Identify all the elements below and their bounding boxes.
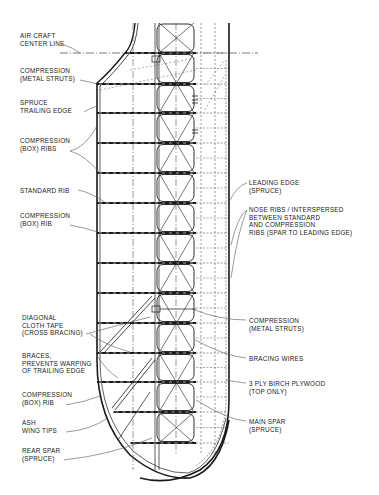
label-compression-metal-struts-top: COMPRESSION (METAL STRUTS) xyxy=(20,67,75,82)
label-diagonal-cloth-tape: DIAGONAL CLOTH TAPE (CROSS BRACING) xyxy=(22,314,83,337)
label-leading-edge: LEADING EDGE (SPRUCE) xyxy=(249,179,299,194)
label-main-spar: MAIN SPAR (SPRUCE) xyxy=(249,418,285,433)
leader-standard-rib xyxy=(78,190,106,203)
label-compression-box-rib-lower: COMPRESSION (BOX) RIB xyxy=(22,391,72,406)
leader-metal-struts-bottom xyxy=(192,309,246,320)
label-ash-wing-tips: ASH WING TIPS xyxy=(22,419,57,434)
label-birch-plywood: 3 PLY BIRCH PLYWOOD (TOP ONLY) xyxy=(249,380,325,395)
label-compression-metal-struts-bottom: COMPRESSION (METAL STRUTS) xyxy=(249,317,304,332)
leader-metal-struts-top xyxy=(80,80,97,84)
label-spruce-trailing-edge: SPRUCE TRAILING EDGE xyxy=(20,99,72,114)
diagonal-brace-2b xyxy=(115,360,155,410)
label-nose-ribs: NOSE RIBS / INTERSPERSED BETWEEN STANDAR… xyxy=(249,206,352,236)
leader-bracing-wires xyxy=(195,340,246,358)
label-braces-trailing-edge: BRACES, PREVENTS WARPING OF TRAILING EDG… xyxy=(22,352,92,375)
label-compression-box-ribs: COMPRESSION (BOX) RIBS xyxy=(20,137,70,152)
leader-trailing-edge xyxy=(84,106,97,112)
leader-box-ribs-a xyxy=(70,126,97,151)
root-diag-2 xyxy=(100,70,196,90)
label-bracing-wires: BRACING WIRES xyxy=(249,355,303,363)
label-compression-box-rib-upper: COMPRESSION (BOX) RIB xyxy=(20,212,70,227)
label-standard-rib: STANDARD RIB xyxy=(20,187,70,195)
leader-cloth-tape-b xyxy=(90,334,130,352)
leader-rear-spar xyxy=(64,438,152,460)
label-rear-spar: REAR SPAR (SPRUCE) xyxy=(22,447,60,462)
diagonal-brace-3 xyxy=(118,392,150,440)
leader-cloth-tape xyxy=(86,317,150,334)
label-aircraft-center-line: AIR CRAFT CENTER LINE xyxy=(20,32,64,47)
leader-braces xyxy=(98,357,118,378)
nose-bay-1 xyxy=(157,86,194,112)
root-fillet-inner xyxy=(100,23,138,86)
nose-bay-12 xyxy=(157,414,194,442)
nose-bay-top xyxy=(157,24,194,52)
leader-main-spar xyxy=(196,400,246,421)
leader-ash-tips xyxy=(66,418,108,432)
leader-center-line xyxy=(62,44,80,53)
leader-box-ribs-b xyxy=(70,151,100,173)
leader-leading-edge xyxy=(230,183,247,200)
leader-box-rib-upper xyxy=(70,225,98,232)
wing-structure-diagram: AIR CRAFT CENTER LINECOMPRESSION (METAL … xyxy=(0,0,379,495)
